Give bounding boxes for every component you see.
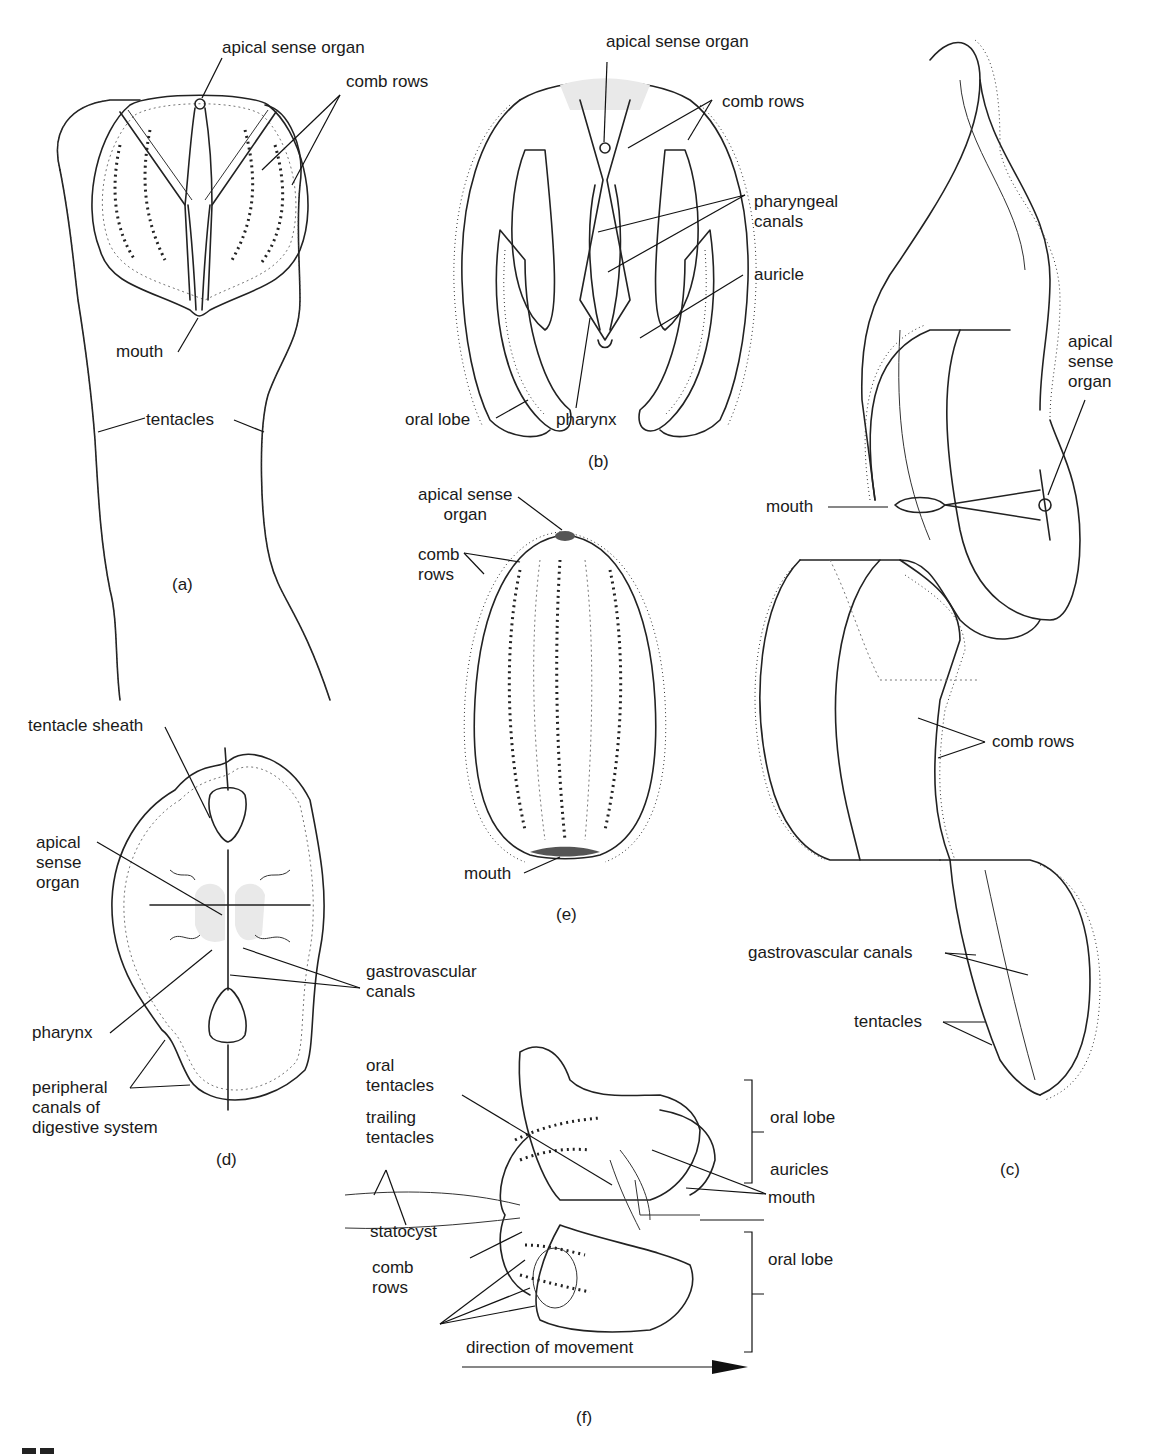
arrow-right-icon (712, 1360, 748, 1374)
label-f-mouth: mouth (768, 1188, 815, 1208)
label-d-peripheral-canals: peripheral canals of digestive system (32, 1078, 158, 1138)
caption-c: (c) (1000, 1160, 1020, 1180)
panel-a-drawing (57, 58, 340, 700)
label-c-tentacles: tentacles (854, 1012, 922, 1032)
panel-f-drawing (345, 1047, 766, 1374)
label-e-apical-sense-organ: apical sense organ (418, 485, 513, 525)
label-b-pharyngeal-canals: pharyngeal canals (754, 192, 838, 232)
label-f-trailing-tentacles: trailing tentacles (366, 1108, 434, 1148)
label-f-statocyst: statocyst (370, 1222, 437, 1242)
caption-f: (f) (576, 1408, 592, 1428)
caption-d: (d) (216, 1150, 237, 1170)
label-d-tentacle-sheath: tentacle sheath (28, 716, 143, 736)
label-a-mouth: mouth (116, 342, 163, 362)
label-f-comb-rows: comb rows (372, 1258, 414, 1298)
caption-a: (a) (172, 575, 193, 595)
label-b-apical-sense-organ: apical sense organ (606, 32, 749, 52)
label-f-auricles: auricles (770, 1160, 829, 1180)
label-a-apical-sense-organ: apical sense organ (222, 38, 365, 58)
label-f-direction-of-movement: direction of movement (466, 1338, 633, 1358)
label-e-mouth: mouth (464, 864, 511, 884)
ctenophore-figure: apical sense organ comb rows mouth tenta… (0, 0, 1152, 1454)
label-a-comb-rows: comb rows (346, 72, 428, 92)
label-d-pharynx: pharynx (32, 1023, 92, 1043)
label-c-mouth: mouth (766, 497, 813, 517)
caption-e: (e) (556, 905, 577, 925)
label-e-comb-rows: comb rows (418, 545, 460, 585)
figure-drawings (0, 0, 1152, 1454)
label-b-comb-rows: comb rows (722, 92, 804, 112)
label-c-apical-sense-organ: apical sense organ (1068, 332, 1113, 392)
label-f-oral-lobe-top: oral lobe (770, 1108, 835, 1128)
label-f-oral-lobe-bottom: oral lobe (768, 1250, 833, 1270)
label-b-pharynx: pharynx (556, 410, 616, 430)
caption-b: (b) (588, 452, 609, 472)
label-c-gastrovascular-canals: gastrovascular canals (748, 943, 912, 963)
label-f-oral-tentacles: oral tentacles (366, 1056, 434, 1096)
panel-b-drawing (454, 62, 756, 437)
label-c-comb-rows: comb rows (992, 732, 1074, 752)
panel-e-drawing (464, 497, 666, 873)
label-b-auricle: auricle (754, 265, 804, 285)
label-b-oral-lobe: oral lobe (405, 410, 470, 430)
label-d-gastrovascular-canals: gastrovascular canals (366, 962, 477, 1002)
label-d-apical-sense-organ: apical sense organ (36, 833, 81, 893)
label-a-tentacles: tentacles (146, 410, 214, 430)
panel-d-drawing (97, 727, 360, 1110)
